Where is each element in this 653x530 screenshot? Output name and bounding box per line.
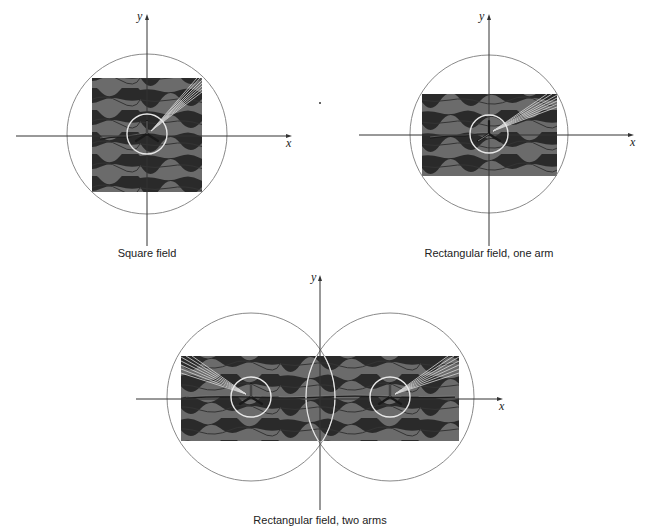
x-axis-label: x: [629, 135, 636, 149]
panel-rectangular-one-arm: x y Rectangular field, one arm: [359, 9, 636, 259]
x-axis-label: x: [498, 399, 505, 413]
x-axis-label: x: [285, 136, 292, 150]
y-axis-arrow-icon: [487, 14, 491, 20]
panel-square-field: x y Square field: [16, 9, 292, 259]
y-axis-label: y: [310, 270, 317, 284]
panel-caption: Rectangular field, two arms: [253, 514, 387, 526]
speck: [319, 102, 321, 104]
panel-rectangular-two-arms: x y Rectangular field, two arms: [136, 270, 505, 526]
y-axis-label: y: [478, 9, 485, 23]
irrigation-field-diagram: x y Square field: [0, 0, 653, 530]
y-axis-arrow-icon: [318, 275, 322, 281]
y-axis-arrow-icon: [145, 14, 149, 20]
y-axis-label: y: [136, 9, 143, 23]
panel-caption: Rectangular field, one arm: [424, 247, 553, 259]
panel-caption: Square field: [118, 247, 177, 259]
